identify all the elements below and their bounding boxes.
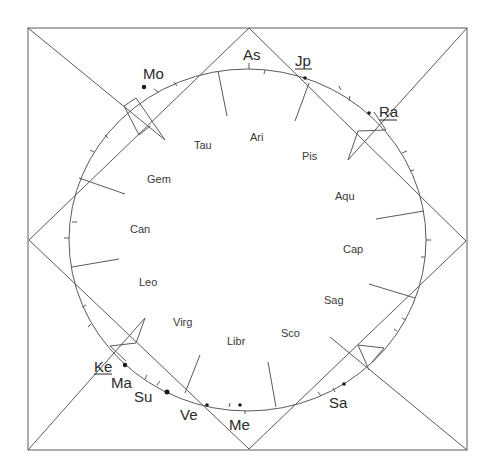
house-cusp-boxes (110, 98, 386, 370)
sign-libr: Libr (227, 335, 246, 347)
planet-dot-sa (342, 382, 346, 386)
planet-dot-me (238, 403, 242, 407)
planet-label-su: Su (134, 388, 152, 405)
planet-label-mo: Mo (143, 65, 164, 82)
sign-sag: Sag (324, 294, 344, 306)
diagonal-top-left (28, 28, 165, 140)
planet-dot-ra (367, 111, 371, 115)
sign-aqu: Aqu (335, 190, 355, 202)
sign-tau: Tau (194, 139, 212, 151)
planet-dot-mo (142, 85, 146, 89)
sign-virg: Virg (173, 316, 192, 328)
sign-can: Can (130, 223, 150, 235)
sign-divisions (72, 71, 424, 407)
zodiac-wheel (69, 69, 426, 411)
chart-frame (28, 28, 467, 450)
sign-sco: Sco (281, 327, 300, 339)
sign-gem: Gem (147, 173, 171, 185)
planet-markers (123, 76, 371, 407)
planet-label-ra: Ra (379, 103, 399, 120)
sign-ari: Ari (250, 131, 263, 143)
house-diamond (29, 28, 466, 449)
planet-label-as: As (243, 46, 261, 63)
sign-pis: Pis (302, 150, 318, 162)
planet-dot-ve (205, 403, 209, 407)
diagonal-top-right (348, 28, 467, 160)
birth-chart: Ari Tau Pis Gem Aqu Can Cap Leo Sag Virg… (0, 0, 494, 473)
planet-label-sa: Sa (329, 394, 348, 411)
diagonal-bottom-right (330, 337, 467, 450)
planet-dot-su (165, 390, 170, 395)
planet-label-me: Me (229, 416, 250, 433)
sign-cap: Cap (343, 243, 363, 255)
sign-labels: Ari Tau Pis Gem Aqu Can Cap Leo Sag Virg… (130, 131, 363, 347)
planet-label-jp: Jp (295, 52, 311, 69)
planet-label-ma: Ma (111, 374, 132, 391)
planet-dot-ke (123, 363, 127, 367)
planet-label-ve: Ve (180, 406, 198, 423)
sign-leo: Leo (139, 276, 157, 288)
planet-dot-jp (303, 76, 307, 80)
planet-label-ke: Ke (94, 358, 112, 375)
